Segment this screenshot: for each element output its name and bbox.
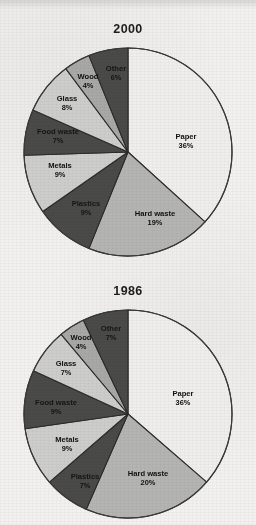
pie-slice-group-2000 xyxy=(24,48,232,256)
pie-canvas-1986: Paper36%Hard waste20%Plastics7%Metals9%F… xyxy=(15,303,241,525)
pie-chart-1986: 1986 Paper36%Hard waste20%Plastics7%Meta… xyxy=(0,284,256,525)
chart-title-2000: 2000 xyxy=(0,22,256,37)
page-top-edge-artifact xyxy=(0,0,256,9)
chart-title-1986: 1986 xyxy=(0,284,256,299)
scanned-page: 2000 Paper36%Hard waste19%Plastics9%Meta… xyxy=(0,0,256,525)
pie-chart-2000: 2000 Paper36%Hard waste19%Plastics9%Meta… xyxy=(0,22,256,263)
pie-svg-1986: Paper36%Hard waste20%Plastics7%Metals9%F… xyxy=(15,303,241,525)
pie-canvas-2000: Paper36%Hard waste19%Plastics9%Metals9%F… xyxy=(15,41,241,263)
pie-svg-2000: Paper36%Hard waste19%Plastics9%Metals9%F… xyxy=(15,41,241,263)
